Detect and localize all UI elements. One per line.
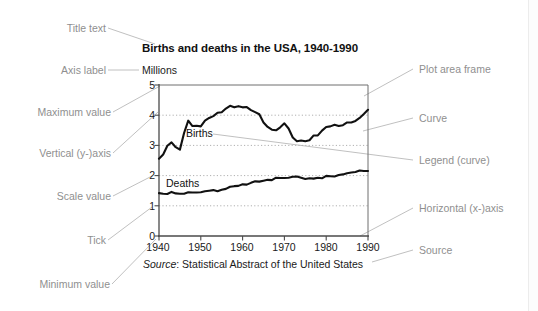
annotation-legend-curve: Legend (curve) bbox=[419, 154, 490, 166]
series-label-births: Births bbox=[186, 127, 213, 139]
annotation-source: Source bbox=[419, 244, 452, 256]
annotation-vertical-y-axis: Vertical (y-)axis bbox=[0, 147, 111, 159]
annotation-maximum-value: Maximum value bbox=[0, 106, 111, 118]
annotation-plot-area-frame: Plot area frame bbox=[419, 63, 491, 75]
annotation-curve: Curve bbox=[419, 112, 447, 124]
series-label-deaths: Deaths bbox=[166, 177, 199, 189]
annotation-axis-label: Axis label bbox=[0, 64, 106, 76]
source-rest: : Statistical Abstract of the United Sta… bbox=[176, 258, 363, 270]
annotation-title-text: Title text bbox=[0, 22, 106, 34]
chart-source: Source: Statistical Abstract of the Unit… bbox=[143, 258, 363, 270]
y-ticks bbox=[155, 85, 160, 236]
annotated-chart-figure: Births and deaths in the USA, 1940-1990 … bbox=[0, 0, 538, 311]
annotation-horizontal-x-axis: Horizontal (x-)axis bbox=[419, 202, 504, 214]
annotation-tick: Tick bbox=[0, 234, 106, 246]
annotation-minimum-value: Minimum value bbox=[0, 278, 110, 290]
annotation-scale-value: Scale value bbox=[0, 190, 111, 202]
x-ticks bbox=[159, 236, 368, 241]
source-word: Source bbox=[143, 258, 176, 270]
